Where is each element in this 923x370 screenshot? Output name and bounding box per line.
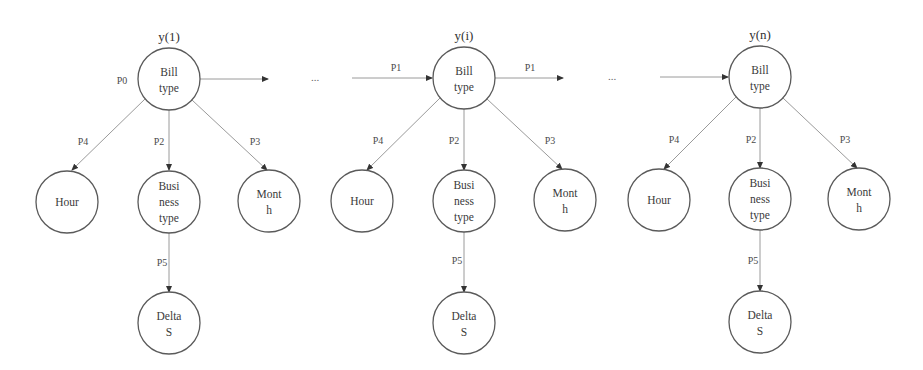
node-label-line1: Mont bbox=[257, 188, 283, 200]
edge-label-to-business: P2 bbox=[449, 135, 460, 146]
edge-label-to-business: P2 bbox=[746, 134, 757, 145]
edge-bill-to-hour bbox=[72, 99, 145, 170]
node-label-line2: h bbox=[856, 202, 862, 214]
node-label-line1: Delta bbox=[452, 310, 477, 322]
node-label-line3: type bbox=[454, 211, 474, 224]
node-label-line2: S bbox=[166, 326, 172, 338]
node-delta-s: Delta S bbox=[433, 292, 495, 354]
node-label-line1: Delta bbox=[748, 309, 773, 321]
node-label-line2: h bbox=[562, 203, 568, 215]
time-step-group-1: y(1) P0 P4 P2 P3 P5 Bill type Hour Busi … bbox=[36, 29, 300, 354]
node-label-line1: Bill bbox=[751, 64, 768, 76]
node-label-line1: Delta bbox=[157, 310, 182, 322]
edge-bill-to-month bbox=[192, 100, 267, 170]
step-label-yi: y(i) bbox=[455, 28, 474, 43]
edge-label-to-delta: P5 bbox=[157, 257, 168, 268]
node-bill-type: Bill type bbox=[138, 48, 200, 110]
node-label-line1: Mont bbox=[553, 187, 579, 199]
edge-bill-to-hour bbox=[367, 98, 440, 170]
node-hour: Hour bbox=[36, 171, 98, 233]
node-label-line1: Busi bbox=[749, 177, 770, 189]
step-label-yn: y(n) bbox=[749, 27, 771, 42]
node-label-line1: Mont bbox=[847, 186, 873, 198]
node-label-line1: Hour bbox=[647, 194, 671, 206]
node-label-line2: type bbox=[454, 81, 474, 94]
ellipsis-2: ... bbox=[608, 70, 617, 82]
edge-label-outgoing: P1 bbox=[525, 62, 536, 73]
node-business-type: Busi ness type bbox=[138, 171, 200, 233]
node-business-type: Busi ness type bbox=[433, 170, 495, 232]
node-label-line2: ness bbox=[159, 196, 179, 208]
edge-label-to-month: P3 bbox=[545, 135, 556, 146]
edge-label-to-hour: P4 bbox=[669, 134, 680, 145]
node-business-type: Busi ness type bbox=[729, 168, 791, 230]
node-label-line2: h bbox=[266, 204, 272, 216]
edge-label-to-hour: P4 bbox=[373, 135, 384, 146]
node-label-line1: Busi bbox=[158, 180, 179, 192]
node-label-line1: Hour bbox=[350, 195, 374, 207]
node-label-line3: type bbox=[750, 209, 770, 222]
edge-bill-to-hour bbox=[664, 97, 736, 169]
node-delta-s: Delta S bbox=[729, 291, 791, 353]
node-label-line3: type bbox=[159, 212, 179, 225]
node-label-line1: Busi bbox=[453, 179, 474, 191]
node-label-line2: type bbox=[750, 80, 770, 93]
node-month: Mont h bbox=[534, 169, 596, 231]
node-label-line2: type bbox=[159, 82, 179, 95]
node-month: Mont h bbox=[238, 170, 300, 232]
edge-label-to-delta: P5 bbox=[452, 255, 463, 266]
edge-label-to-delta: P5 bbox=[748, 255, 759, 266]
node-bill-type: Bill type bbox=[729, 46, 791, 108]
node-bill-type: Bill type bbox=[433, 47, 495, 109]
edge-label-incoming: P1 bbox=[391, 62, 402, 73]
ellipsis-1: ... bbox=[311, 71, 320, 83]
node-label-line2: S bbox=[461, 326, 467, 338]
step-label-y1: y(1) bbox=[158, 29, 180, 44]
hmm-bill-type-diagram: y(1) P0 P4 P2 P3 P5 Bill type Hour Busi … bbox=[0, 0, 923, 370]
node-label-line2: ness bbox=[454, 195, 474, 207]
node-hour: Hour bbox=[628, 169, 690, 231]
edge-label-to-month: P3 bbox=[250, 136, 261, 147]
edge-label-to-month: P3 bbox=[840, 134, 851, 145]
edge-label-to-hour: P4 bbox=[78, 136, 89, 147]
time-step-group-i: y(i) P1 P1 P4 P2 P3 P5 Bill type Hour Bu… bbox=[331, 28, 596, 354]
node-label-line2: S bbox=[757, 325, 763, 337]
node-delta-s: Delta S bbox=[138, 292, 200, 354]
node-hour: Hour bbox=[331, 170, 393, 232]
node-label-line1: Bill bbox=[160, 66, 177, 78]
node-month: Mont h bbox=[828, 168, 890, 230]
node-label-line1: Bill bbox=[455, 65, 472, 77]
node-label-line1: Hour bbox=[55, 196, 79, 208]
edge-label-p0: P0 bbox=[117, 75, 128, 86]
edge-label-to-business: P2 bbox=[154, 136, 165, 147]
edge-bill-to-month bbox=[783, 98, 857, 168]
edge-bill-to-month bbox=[487, 99, 562, 169]
node-label-line2: ness bbox=[750, 193, 770, 205]
time-step-group-n: y(n) P4 P2 P3 P5 Bill type Hour Busi nes… bbox=[628, 27, 890, 353]
